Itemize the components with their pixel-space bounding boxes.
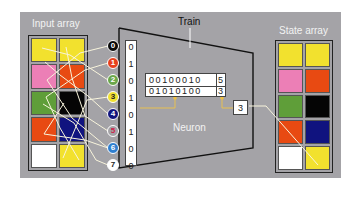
bit-value: 0: [126, 42, 136, 52]
bit-value: 1: [126, 127, 136, 137]
node-4: 4: [107, 108, 119, 120]
neuron-table: 00100010 5 01010100 3: [145, 73, 226, 97]
output-wire: [249, 106, 318, 165]
node-2: 2: [107, 74, 119, 86]
node-0: 0: [107, 40, 119, 52]
neuron-row: 01010100 3: [146, 86, 225, 97]
output-box: 3: [233, 100, 248, 115]
neuron-connectors: [140, 98, 233, 108]
bit-value: 1: [126, 59, 136, 69]
neuron-row-value: 5: [218, 75, 223, 85]
bit-column: 01010100: [125, 40, 137, 166]
node-7: 7: [107, 159, 119, 171]
node-6: 6: [107, 142, 119, 154]
neuron-label: Neuron: [173, 122, 206, 133]
wiring-overlay: [0, 0, 356, 201]
bit-value: 0: [126, 110, 136, 120]
neuron-row-bits: 01010100: [149, 86, 202, 96]
node-1: 1: [107, 57, 119, 69]
table-divider: [216, 74, 217, 96]
node-5: 5: [107, 125, 119, 137]
node-3: 3: [107, 91, 119, 103]
neuron-row-bits: 00100010: [149, 75, 202, 85]
bit-value: 0: [126, 76, 136, 86]
bit-value: 0: [126, 161, 136, 171]
bit-value: 1: [126, 93, 136, 103]
bit-value: 0: [126, 144, 136, 154]
train-trapezoid: [119, 28, 253, 168]
input-wires: [42, 46, 108, 165]
neuron-row-value: 3: [218, 86, 223, 96]
